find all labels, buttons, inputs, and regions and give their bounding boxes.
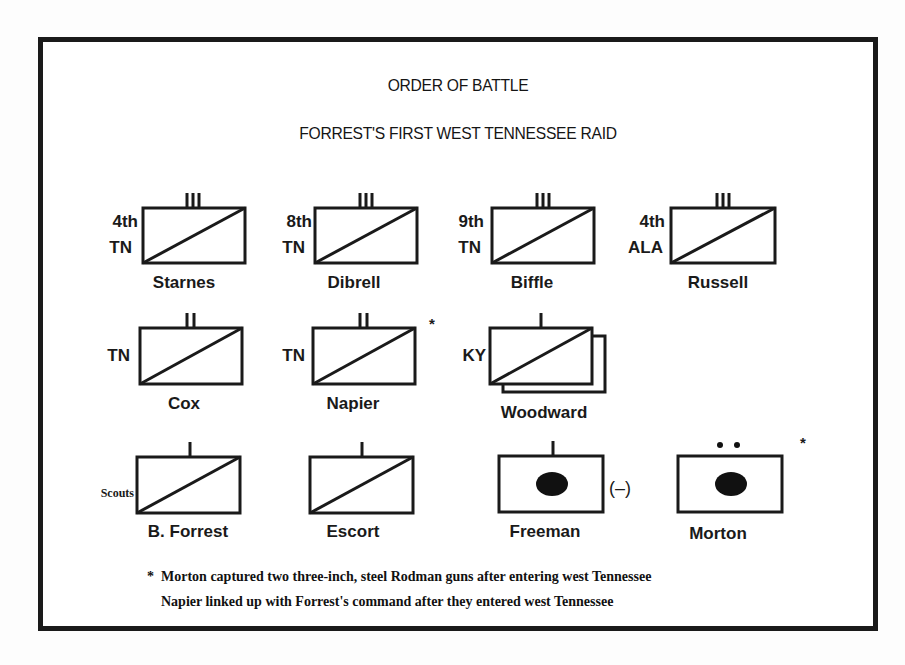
commander-escort: Escort (327, 522, 380, 541)
battery-size-icon (717, 442, 723, 448)
unit-symbol-starnes (143, 193, 245, 263)
morton-note-marker: * (800, 434, 806, 451)
napier-note-marker: * (429, 315, 435, 332)
unit-symbol-biffle (492, 193, 594, 263)
commander-bforrest: B. Forrest (148, 522, 229, 541)
commander-dibrell: Dibrell (328, 273, 381, 292)
battery-size-icon (734, 442, 740, 448)
commander-napier: Napier (327, 394, 380, 413)
unit-symbol-woodward (490, 313, 605, 392)
commander-russell: Russell (688, 273, 748, 292)
designation-biffle-state: TN (458, 238, 481, 257)
unit-symbol-bforrest (137, 442, 240, 513)
artillery-icon (536, 472, 568, 496)
commander-freeman: Freeman (510, 522, 581, 541)
designation-russell-number: 4th (640, 212, 666, 231)
footnote-1: * Morton captured two three-inch, steel … (147, 569, 651, 585)
commander-starnes: Starnes (153, 273, 215, 292)
unit-symbol-escort (310, 442, 413, 513)
designation-dibrell-number: 8th (287, 212, 313, 231)
designation-biffle-number: 9th (459, 212, 485, 231)
unit-symbol-napier (313, 313, 415, 384)
commander-morton: Morton (689, 524, 747, 543)
unit-symbol-russell (671, 193, 775, 263)
reduced-strength-marker: (–) (609, 478, 631, 498)
designation-starnes-number: 4th (113, 212, 139, 231)
designation-dibrell-state: TN (282, 238, 305, 257)
footnote-marker: * (147, 569, 154, 584)
commander-woodward: Woodward (501, 403, 588, 422)
footnote-1-text: Morton captured two three-inch, steel Ro… (161, 569, 651, 584)
unit-symbol-dibrell (315, 193, 417, 263)
commander-cox: Cox (168, 394, 201, 413)
designation-cox-state: TN (107, 346, 130, 365)
designation-starnes-state: TN (109, 238, 132, 257)
order-of-battle-diagram: 4th TN 8th TN 9th TN 4th ALA TN TN KY Sc… (0, 0, 905, 665)
unit-symbol-cox (140, 313, 242, 384)
designation-russell-state: ALA (628, 238, 663, 257)
artillery-icon (715, 472, 747, 496)
footnote-2: Napier linked up with Forrest's command … (161, 594, 613, 610)
commander-biffle: Biffle (511, 273, 554, 292)
designation-bforrest: Scouts (101, 486, 135, 500)
designation-napier-state: TN (282, 346, 305, 365)
designation-woodward-state: KY (462, 346, 486, 365)
